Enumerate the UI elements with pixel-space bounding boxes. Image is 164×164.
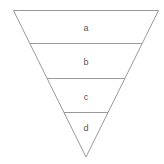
level-label-c: c <box>84 92 89 102</box>
level-label-d: d <box>83 123 88 133</box>
level-label-b: b <box>83 57 88 67</box>
level-label-a: a <box>83 23 88 33</box>
funnel-diagram: a b c d <box>0 0 164 164</box>
